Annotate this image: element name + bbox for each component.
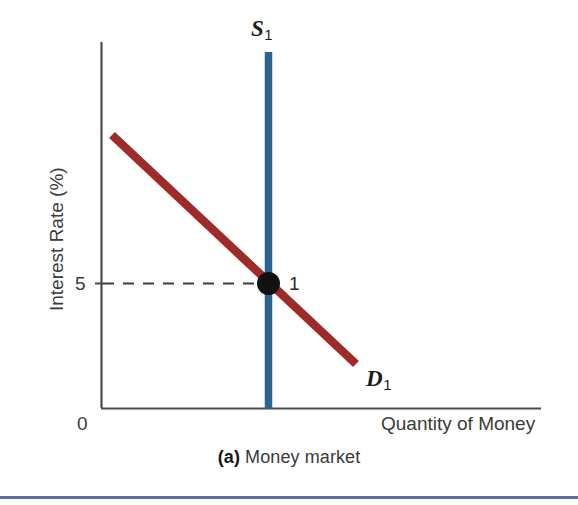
y-axis-tick-label-5: 5: [75, 274, 86, 293]
figure-panel-tag: (a): [218, 447, 240, 467]
figure-caption-text: Money market: [240, 447, 360, 467]
supply-curve-label: S1: [251, 17, 272, 40]
demand-curve-d1: [112, 135, 356, 364]
y-axis-title: Interest Rate (%): [47, 167, 66, 311]
figure-caption: (a) Money market: [0, 447, 578, 468]
supply-curve-label-name: S: [251, 16, 264, 41]
section-divider: [0, 496, 578, 499]
supply-curve-label-subscript: 1: [264, 26, 272, 43]
equilibrium-point-marker: [257, 272, 280, 295]
x-axis-title: Quantity of Money: [381, 414, 535, 433]
demand-curve-label-name: D: [366, 366, 383, 391]
equilibrium-point-label: 1: [289, 274, 300, 293]
demand-curve-label: D1: [366, 367, 391, 390]
money-market-figure: Interest Rate (%) 5 0 Quantity of Money …: [0, 0, 578, 505]
origin-label: 0: [77, 414, 88, 433]
demand-curve-label-subscript: 1: [383, 376, 391, 393]
